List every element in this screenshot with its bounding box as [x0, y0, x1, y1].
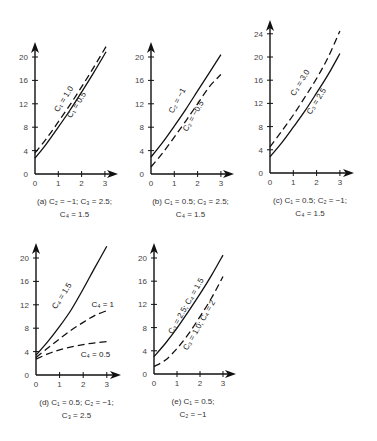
series-label: C₄ = 0.5: [81, 350, 111, 359]
y-tick-label: 4: [25, 348, 30, 357]
panel-caption: C₂ = −1: [179, 410, 207, 419]
panel-caption: (c) C₁ = 0.5; C₂ = −1;: [273, 196, 347, 205]
panel-caption: (b) C₁ = 0.5; C₃ = 2.5;: [152, 197, 229, 206]
x-tick-label: 2: [79, 179, 84, 188]
y-tick-label: 12: [19, 100, 28, 109]
panel-c: 012304812162024C₃ = 3.0C₃ = 2.5(c) C₁ = …: [254, 20, 354, 218]
series-label: C₂ = −0.5: [181, 99, 206, 133]
panel-caption: (a) C₂ = −1; C₃ = 2.5;: [37, 197, 112, 206]
x-tick-label: 2: [314, 178, 319, 187]
x-tick-label: 1: [172, 179, 177, 188]
series-line: [35, 46, 106, 152]
x-tick-label: 2: [198, 379, 203, 388]
series-label: C₃ = 2.5: [305, 86, 328, 116]
y-tick-label: 16: [254, 76, 263, 85]
x-tick-label: 3: [338, 178, 343, 187]
y-tick-label: 16: [138, 277, 147, 286]
panel-e: 0123048121620C₃ = 2.5; C₄ = 1.5C₃ = 1.0;…: [138, 243, 236, 419]
x-tick-label: 0: [152, 379, 157, 388]
x-tick-label: 3: [105, 380, 110, 389]
y-tick-label: 8: [24, 123, 29, 132]
y-tick-label: 4: [259, 146, 264, 155]
panel-caption: C₄ = 1.5: [176, 210, 206, 219]
y-tick-label: 24: [254, 30, 263, 39]
x-tick-label: 0: [268, 178, 273, 187]
series-line: [154, 277, 223, 367]
x-tick-label: 1: [291, 178, 296, 187]
x-tick-label: 1: [175, 379, 180, 388]
y-tick-label: 12: [138, 300, 147, 309]
panel-d: 0123048121620C₄ = 1.5C₄ = 1C₄ = 0.5(d) C…: [20, 243, 121, 420]
x-tick-label: 3: [103, 179, 108, 188]
panel-caption: (e) C₁ = 0.5;: [172, 397, 215, 406]
y-tick-label: 4: [24, 147, 29, 156]
series-label: C₄ = 1.5: [50, 281, 74, 311]
y-tick-label: 16: [19, 76, 28, 85]
y-tick-label: 0: [143, 370, 148, 379]
x-tick-label: 1: [56, 179, 61, 188]
y-tick-label: 16: [135, 76, 144, 85]
y-tick-label: 20: [138, 254, 147, 263]
y-tick-label: 20: [254, 53, 263, 62]
x-tick-label: 3: [221, 379, 226, 388]
y-tick-label: 0: [259, 169, 264, 178]
y-tick-label: 12: [254, 99, 263, 108]
y-tick-label: 8: [143, 324, 148, 333]
series-label: C₄ = 1: [91, 300, 114, 309]
x-tick-label: 2: [195, 179, 200, 188]
y-tick-label: 8: [140, 123, 145, 132]
panel-caption: (d) C₁ = 0.5; C₂ = −1;: [39, 398, 114, 407]
y-tick-label: 0: [24, 170, 29, 179]
panel-caption: C₃ = 2.5: [62, 411, 92, 420]
series-line: [151, 55, 221, 157]
y-tick-label: 20: [20, 254, 29, 263]
series-label: C₃ = 3.0: [289, 67, 312, 97]
y-tick-label: 8: [259, 123, 264, 132]
y-tick-label: 8: [25, 324, 30, 333]
y-tick-label: 0: [25, 371, 30, 380]
series-line: [270, 31, 340, 147]
x-tick-label: 0: [33, 179, 38, 188]
y-tick-label: 16: [20, 277, 29, 286]
panel-a: 0123048121620C₁ = 1.0C₁ = 0.5(a) C₂ = −1…: [19, 42, 118, 219]
y-tick-label: 12: [20, 301, 29, 310]
x-tick-label: 1: [57, 380, 62, 389]
figure-canvas: 0123048121620C₁ = 1.0C₁ = 0.5(a) C₂ = −1…: [0, 0, 377, 441]
y-tick-label: 12: [135, 100, 144, 109]
panel-b: 0123048121620C₂ = −1C₂ = −0.5(b) C₁ = 0.…: [135, 42, 234, 219]
y-tick-label: 20: [19, 53, 28, 62]
y-tick-label: 0: [140, 170, 145, 179]
y-tick-label: 4: [143, 347, 148, 356]
x-tick-label: 2: [81, 380, 86, 389]
panel-caption: C₄ = 1.5: [295, 209, 325, 218]
x-tick-label: 0: [149, 179, 154, 188]
y-tick-label: 4: [140, 147, 145, 156]
x-tick-label: 3: [219, 179, 224, 188]
x-tick-label: 0: [34, 380, 39, 389]
panel-caption: C₄ = 1.5: [60, 210, 90, 219]
y-tick-label: 20: [135, 53, 144, 62]
